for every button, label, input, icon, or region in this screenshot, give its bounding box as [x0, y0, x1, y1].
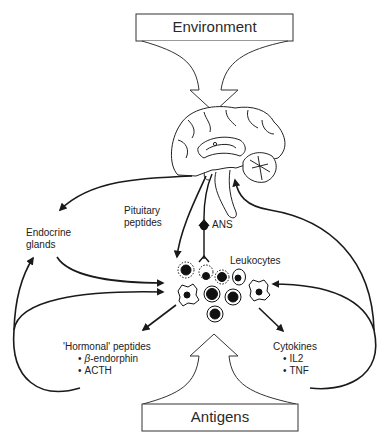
- cytokines-block: Cytokines IL2 TNF: [273, 341, 317, 377]
- arrow-leukocytes-to-hormonal: [143, 305, 176, 330]
- cell-lymphocyte: [207, 306, 223, 322]
- cell-macrophage: [249, 280, 270, 301]
- arrow-endocrine-to-leukocytes: [57, 257, 163, 283]
- cytokine-item-tnf: TNF: [283, 365, 317, 377]
- arrow-hormonal-to-endocrine: [14, 258, 33, 330]
- environment-label: Environment: [136, 18, 293, 36]
- cell-monocyte: [233, 269, 246, 285]
- leukocytes-label: Leukocytes: [230, 255, 281, 267]
- ans-label: ANS: [212, 219, 233, 231]
- pituitary-peptides-label: Pituitary peptides: [124, 205, 162, 229]
- hormonal-item-acth: ACTH: [78, 365, 151, 377]
- cell-macrophage: [178, 284, 199, 306]
- diagram-canvas: [0, 0, 391, 444]
- arrow-pituitary-peptides: [177, 176, 206, 257]
- arrow-leukocytes-to-cytokines: [259, 308, 283, 331]
- cell-lymphocyte: [178, 262, 194, 278]
- antigens-label: Antigens: [142, 408, 298, 426]
- hormonal-peptides-block: 'Hormonal' peptides β-endorphin ACTH: [63, 341, 151, 377]
- cell-lymphocyte: [225, 289, 241, 305]
- cell-lymphocyte: [204, 286, 220, 302]
- cytokine-item-il2: IL2: [283, 353, 317, 365]
- hormonal-peptides-title: 'Hormonal' peptides: [63, 341, 151, 353]
- cytokines-title: Cytokines: [273, 341, 317, 353]
- endocrine-glands-label: Endocrine glands: [26, 227, 71, 251]
- leukocyte-cells: [178, 262, 270, 322]
- cell-granulocyte: [199, 265, 213, 280]
- hormonal-item-beta-endorphin: β-endorphin: [78, 353, 151, 365]
- cell-lymphocyte: [215, 270, 229, 284]
- brain-icon: [171, 107, 285, 218]
